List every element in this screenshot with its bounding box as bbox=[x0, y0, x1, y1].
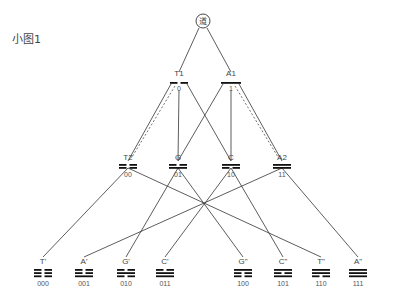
edge-dashed-A1-A2 bbox=[235, 86, 278, 157]
node-G"-yin-line-right bbox=[245, 272, 253, 274]
node-code-C": 101 bbox=[277, 280, 289, 287]
node-code-T1: 0 bbox=[177, 85, 181, 92]
node-A1-yang-line bbox=[221, 82, 241, 84]
node-label-C: C bbox=[228, 153, 234, 162]
edge-C-C' bbox=[165, 168, 231, 257]
edge-root-A1 bbox=[207, 28, 231, 72]
node-A'-yin-line-right bbox=[86, 269, 94, 271]
node-T2-yin-line-right bbox=[130, 167, 138, 169]
node-A"-yang-line bbox=[349, 275, 367, 277]
node-code-T2: 00 bbox=[124, 171, 132, 178]
node-A'-yin-line-right bbox=[86, 272, 94, 274]
node-label-G: G bbox=[175, 153, 181, 162]
node-G'-yin-line-right bbox=[128, 275, 136, 277]
node-T1-yin-line-right bbox=[181, 82, 189, 84]
node-label-G": G" bbox=[238, 257, 247, 266]
node-G'-yang-line bbox=[117, 272, 135, 274]
node-label-T": T" bbox=[317, 257, 325, 266]
node-A"-yang-line bbox=[349, 269, 367, 271]
node-G"-yin-line-right bbox=[245, 275, 253, 277]
edge-G-G" bbox=[178, 168, 243, 257]
node-label-C': C' bbox=[161, 257, 169, 266]
edge-dashed-T1-T2 bbox=[132, 86, 175, 157]
node-A'-yin-line-left bbox=[75, 269, 83, 271]
nodes-layer: 道T10A11T200G01C10A211T'000A'001G'010C'01… bbox=[34, 14, 367, 287]
node-label-C": C" bbox=[279, 257, 288, 266]
root-label: 道 bbox=[199, 16, 207, 26]
node-T'-yin-line-left bbox=[34, 272, 42, 274]
node-T'-yin-line-right bbox=[45, 272, 53, 274]
edge-G-G' bbox=[126, 168, 178, 257]
node-A'-yin-line-left bbox=[75, 272, 83, 274]
node-T2-yin-line-right bbox=[130, 164, 138, 166]
node-label-A": A" bbox=[354, 257, 362, 266]
node-G-yin-line-right bbox=[180, 164, 188, 166]
node-G'-yin-line-left bbox=[117, 275, 125, 277]
node-T'-yin-line-right bbox=[45, 275, 53, 277]
node-code-G": 100 bbox=[237, 280, 249, 287]
node-G"-yin-line-left bbox=[234, 275, 242, 277]
node-code-C: 10 bbox=[227, 171, 235, 178]
node-A2-yang-line bbox=[273, 167, 291, 169]
node-C-yin-line-right bbox=[233, 167, 241, 169]
node-label-G': G' bbox=[122, 257, 130, 266]
edge-root-T1 bbox=[179, 28, 199, 72]
node-T1-yin-line-left bbox=[170, 82, 178, 84]
node-C'-yang-line bbox=[156, 275, 174, 277]
node-label-A2: A2 bbox=[277, 153, 287, 162]
node-G"-yang-line bbox=[234, 269, 252, 271]
node-C-yang-line bbox=[222, 164, 240, 166]
node-G"-yin-line-left bbox=[234, 272, 242, 274]
node-G-yang-line bbox=[169, 167, 187, 169]
node-code-G': 010 bbox=[120, 280, 132, 287]
node-A'-yang-line bbox=[75, 275, 93, 277]
edge-C-C" bbox=[231, 168, 283, 257]
node-code-A': 001 bbox=[78, 280, 90, 287]
node-T'-yin-line-left bbox=[34, 275, 42, 277]
edges-layer bbox=[43, 28, 358, 257]
node-T2-yin-line-left bbox=[119, 164, 127, 166]
edge-A1-G bbox=[178, 84, 223, 161]
node-label-T2: T2 bbox=[123, 153, 133, 162]
node-C"-yin-line-left bbox=[274, 272, 282, 274]
node-T"-yang-line bbox=[312, 272, 330, 274]
node-code-C': 011 bbox=[159, 280, 170, 287]
node-T"-yin-line-right bbox=[323, 275, 331, 277]
node-code-A": 111 bbox=[353, 280, 364, 287]
node-T'-yin-line-right bbox=[45, 269, 53, 271]
edge-T1-C bbox=[187, 84, 231, 161]
node-code-A1: 1 bbox=[229, 85, 233, 92]
node-label-T': T' bbox=[40, 257, 47, 266]
node-T'-yin-line-left bbox=[34, 269, 42, 271]
node-C'-yang-line bbox=[156, 272, 174, 274]
node-code-G: 01 bbox=[174, 171, 182, 178]
node-code-T": 110 bbox=[315, 280, 326, 287]
node-T2-yin-line-left bbox=[119, 167, 127, 169]
node-C"-yang-line bbox=[274, 275, 292, 277]
node-label-A1: A1 bbox=[226, 69, 236, 78]
edge-A1-A2 bbox=[239, 84, 282, 161]
node-G-yin-line-left bbox=[169, 164, 177, 166]
node-C'-yin-line-left bbox=[156, 269, 164, 271]
edge-A2-A' bbox=[84, 168, 282, 257]
node-G'-yin-line-left bbox=[117, 269, 125, 271]
node-C"-yin-line-right bbox=[285, 272, 293, 274]
node-G'-yin-line-right bbox=[128, 269, 136, 271]
node-A"-yang-line bbox=[349, 272, 367, 274]
node-C'-yin-line-right bbox=[167, 269, 175, 271]
node-code-T': 000 bbox=[37, 280, 49, 287]
node-label-A': A' bbox=[81, 257, 88, 266]
node-C-yin-line-left bbox=[222, 167, 230, 169]
edge-T2-T' bbox=[43, 168, 128, 257]
binary-tree-diagram: 道T10A11T200G01C10A211T'000A'001G'010C'01… bbox=[0, 0, 397, 301]
node-label-T1: T1 bbox=[174, 69, 184, 78]
node-T"-yang-line bbox=[312, 269, 330, 271]
edge-A2-A" bbox=[282, 168, 358, 257]
node-code-A2: 11 bbox=[278, 171, 285, 178]
edge-T2-T" bbox=[128, 168, 321, 257]
edge-T1-G bbox=[178, 90, 179, 161]
node-T"-yin-line-left bbox=[312, 275, 320, 277]
node-C"-yang-line bbox=[274, 269, 292, 271]
edge-T1-T2 bbox=[128, 84, 171, 161]
node-A2-yang-line bbox=[273, 164, 291, 166]
